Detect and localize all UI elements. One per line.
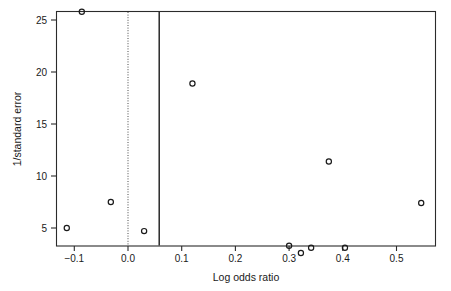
x-axis-title: Log odds ratio <box>213 271 280 283</box>
x-tick-label: 0.4 <box>336 253 350 264</box>
y-tick-label: 15 <box>36 119 48 130</box>
x-tick-label: 0.0 <box>121 253 135 264</box>
y-tick-label: 20 <box>36 67 48 78</box>
y-tick-label: 25 <box>36 15 48 26</box>
funnel-plot-figure: −0.1 0.0 0.1 0.2 0.3 0.4 0.5 5 10 15 20 … <box>0 0 451 291</box>
figure-background <box>0 0 451 291</box>
x-tick-label: −0.1 <box>64 253 84 264</box>
y-tick-label: 5 <box>41 223 47 234</box>
x-tick-label: 0.5 <box>390 253 404 264</box>
x-tick-label: 0.3 <box>282 253 296 264</box>
y-axis-title: 1/standard error <box>11 91 23 166</box>
x-tick-label: 0.2 <box>228 253 242 264</box>
y-tick-label: 10 <box>36 171 48 182</box>
x-tick-label: 0.1 <box>175 253 189 264</box>
